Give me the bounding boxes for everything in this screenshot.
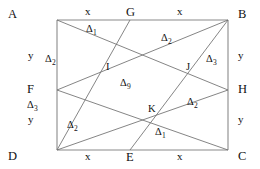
midpoint-label-H: H	[238, 83, 247, 96]
region-symbol: Δ	[155, 126, 162, 137]
segment-EB	[130, 20, 228, 150]
region-label-right-delta3: Δ3	[206, 54, 217, 65]
region-symbol: Δ	[45, 53, 52, 64]
region-label-center-delta9: Δ9	[120, 78, 131, 89]
side-label-ad-bottom-y: y	[28, 114, 34, 125]
region-symbol: Δ	[27, 99, 34, 110]
region-label-bottom-delta2: Δ2	[67, 120, 78, 131]
region-index: 2	[74, 124, 78, 133]
vertex-label-C: C	[238, 150, 246, 163]
region-label-lowerleft-delta3: Δ3	[27, 100, 38, 111]
region-label-topright-delta2: Δ2	[161, 33, 172, 44]
region-index: 3	[34, 104, 38, 113]
side-label-bc-bottom-y: y	[238, 114, 244, 125]
region-index: 1	[162, 131, 166, 140]
region-index: 1	[93, 28, 97, 37]
vertex-label-A: A	[8, 8, 17, 21]
intersection-label-I: I	[106, 62, 110, 73]
region-index: 2	[194, 101, 198, 110]
side-label-bc-top-y: y	[238, 50, 244, 61]
region-label-midright-delta2: Δ2	[187, 97, 198, 108]
region-index: 2	[168, 37, 172, 46]
region-index: 3	[213, 58, 217, 67]
region-symbol: Δ	[161, 32, 168, 43]
vertex-label-D: D	[8, 150, 17, 163]
region-label-top-delta1: Δ1	[86, 24, 97, 35]
region-label-lowerright-delta1: Δ1	[155, 127, 166, 138]
geometry-figure: A B C D G E F H I J K x x x x y y y y Δ1…	[0, 0, 260, 169]
side-label-ad-top-y: y	[28, 50, 34, 61]
region-symbol: Δ	[67, 119, 74, 130]
side-label-dc-left-x: x	[85, 151, 91, 162]
midpoint-label-G: G	[126, 6, 135, 19]
region-symbol: Δ	[120, 77, 127, 88]
side-label-ab-left-x: x	[85, 6, 91, 17]
region-symbol: Δ	[86, 23, 93, 34]
intersection-label-J: J	[186, 62, 190, 73]
region-symbol: Δ	[206, 53, 213, 64]
side-label-ab-right-x: x	[177, 6, 183, 17]
midpoint-label-F: F	[27, 83, 34, 96]
intersection-label-K: K	[148, 104, 156, 115]
region-symbol: Δ	[187, 96, 194, 107]
vertex-label-B: B	[238, 8, 246, 21]
midpoint-label-E: E	[126, 151, 134, 164]
region-index: 9	[127, 82, 131, 91]
rectangle-outline	[57, 20, 228, 150]
region-label-left-delta2: Δ2	[45, 54, 56, 65]
cevian-lines	[57, 20, 228, 150]
side-label-dc-right-x: x	[177, 151, 183, 162]
region-index: 2	[52, 58, 56, 67]
